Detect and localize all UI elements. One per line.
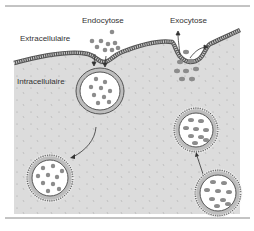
endocytosis-exocytosis-diagram: Endocytose Exocytose Extracellulaire Int…: [0, 0, 254, 231]
extracellular-label: Extracellulaire: [20, 34, 70, 43]
endocytosis-label: Endocytose: [82, 16, 124, 25]
endocytosis-particles: [90, 30, 121, 53]
endocytic-vesicle: [76, 68, 124, 114]
secretory-vesicle-upper: [174, 108, 218, 152]
intracellular-label: Intracellulaire: [17, 77, 65, 86]
exocytosis-label: Exocytose: [170, 16, 207, 25]
secretory-vesicle-lower: [195, 170, 241, 216]
internalized-vesicle: [27, 155, 73, 201]
